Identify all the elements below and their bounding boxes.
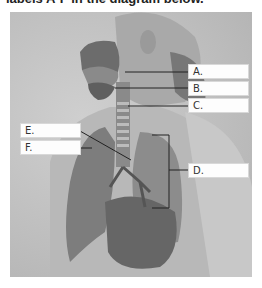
label-box-b[interactable]: B.: [188, 81, 249, 96]
label-box-e[interactable]: E.: [20, 123, 81, 138]
bracket-d: [152, 135, 169, 208]
leader-line-e: [80, 131, 131, 160]
label-box-c[interactable]: C.: [188, 98, 249, 113]
label-box-f[interactable]: F.: [20, 140, 81, 155]
label-box-a[interactable]: A.: [188, 64, 249, 79]
label-box-d[interactable]: D.: [188, 163, 249, 178]
